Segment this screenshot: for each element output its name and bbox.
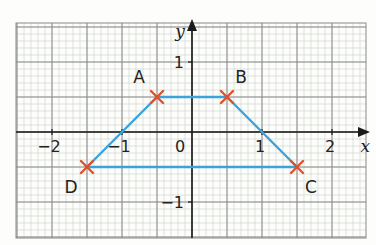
y-axis-label: y [174,21,185,41]
x-tick-label: −1 [107,137,131,156]
y-tick-label: 1 [174,53,184,72]
point-label-d: D [64,177,77,197]
point-label-a: A [133,67,145,87]
y-axis-arrow-icon [187,19,197,31]
x-tick-label: 1 [255,137,265,156]
x-axis-label: x [360,136,370,156]
y-tick-label: −1 [160,193,184,212]
x-tick-label: −2 [37,137,61,156]
x-tick-label: 0 [175,137,185,156]
axes [16,19,370,238]
point-label-b: B [235,67,247,87]
x-tick-label: 2 [325,137,335,156]
minor-grid [16,23,366,238]
point-label-c: C [305,177,317,197]
coordinate-plane: −2−10121−1yxABCD [0,0,376,245]
